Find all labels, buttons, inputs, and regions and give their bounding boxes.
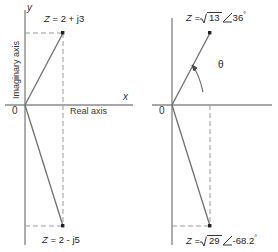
right-upper-phasor-line xyxy=(172,33,210,105)
z-lower-rect-expression: 2 - j5 xyxy=(59,234,80,245)
z-lower-polar-symbol: Z xyxy=(186,235,192,246)
right-origin-label: 0 xyxy=(159,106,165,116)
sqrt-tick-icon xyxy=(200,236,207,246)
z-lower-polar-degree: ° xyxy=(254,234,257,241)
figure-root: y x 0 Imaginary axis Real axis Z = 2 + j… xyxy=(0,0,278,252)
z-upper-polar-angle: 36 xyxy=(233,12,244,23)
right-lower-point-marker xyxy=(208,224,211,227)
z-upper-polar-degree: ° xyxy=(243,11,246,18)
imaginary-axis-label: Imaginary axis xyxy=(12,41,21,99)
left-lower-point-marker xyxy=(61,224,64,227)
z-upper-rect-equals: = xyxy=(52,13,58,24)
theta-arc-arrowhead xyxy=(192,65,197,71)
z-upper-polar-sqrt: 13 xyxy=(200,12,222,23)
left-origin-label: 0 xyxy=(12,106,18,116)
z-upper-rect-expression: 2 + j3 xyxy=(61,13,85,24)
z-upper-rect-symbol: Z xyxy=(44,13,50,24)
right-upper-point-marker xyxy=(208,31,211,34)
right-panel-group xyxy=(152,18,272,245)
z-lower-rect-symbol: Z xyxy=(42,234,48,245)
sqrt-tick-icon xyxy=(200,13,207,23)
left-upper-phasor-line xyxy=(25,33,63,105)
z-upper-polar-symbol: Z xyxy=(186,12,192,23)
real-axis-label: Real axis xyxy=(70,107,107,116)
z-lower-polar-radicand: 29 xyxy=(207,235,222,246)
theta-symbol-label: θ xyxy=(218,60,224,70)
z-upper-polar-label: Z = 13 36° xyxy=(186,11,246,23)
z-upper-polar-radicand: 13 xyxy=(207,12,222,23)
angle-symbol-icon xyxy=(222,12,233,23)
z-lower-rect-label: Z = 2 - j5 xyxy=(42,235,80,245)
left-lower-phasor-line xyxy=(25,105,63,226)
z-lower-polar-label: Z = 29 -68.2° xyxy=(186,234,257,246)
z-lower-polar-angle: -68.2 xyxy=(233,235,255,246)
left-x-axis-letter: x xyxy=(123,92,128,102)
z-upper-rect-label: Z = 2 + j3 xyxy=(44,14,84,24)
left-panel-group xyxy=(5,10,133,245)
z-lower-rect-equals: = xyxy=(50,234,56,245)
diagram-canvas xyxy=(0,0,278,252)
z-lower-polar-sqrt: 29 xyxy=(200,235,222,246)
right-lower-phasor-line xyxy=(172,105,210,226)
angle-symbol-icon xyxy=(222,235,233,246)
left-upper-point-marker xyxy=(61,31,64,34)
left-y-axis-letter: y xyxy=(27,3,32,13)
